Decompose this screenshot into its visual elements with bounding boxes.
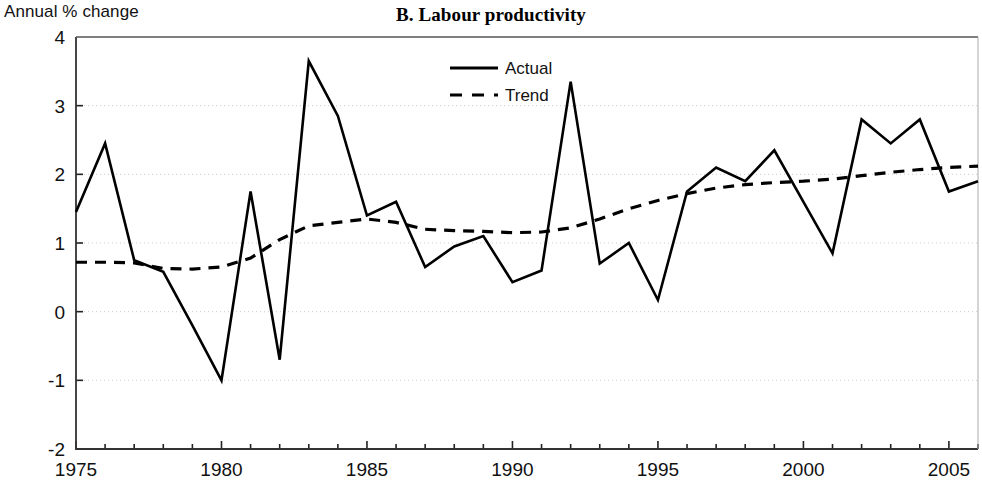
y-tick-label: 4 bbox=[54, 27, 65, 48]
x-tick-label: 1995 bbox=[637, 459, 679, 480]
x-axis-ticks-group: 1975198019851990199520002005 bbox=[55, 441, 978, 480]
y-tick-label: 3 bbox=[54, 96, 65, 117]
gridlines-group bbox=[76, 106, 978, 381]
series-line-trend bbox=[76, 166, 978, 269]
data-series-group bbox=[76, 61, 978, 380]
chart-legend: ActualTrend bbox=[450, 59, 552, 105]
x-tick-label: 2005 bbox=[928, 459, 970, 480]
chart-figure: Annual % change B. Labour productivity -… bbox=[0, 0, 982, 483]
x-tick-label: 1985 bbox=[346, 459, 388, 480]
y-tick-label: 0 bbox=[54, 302, 65, 323]
legend-label-actual: Actual bbox=[505, 59, 552, 78]
y-tick-label: 2 bbox=[54, 164, 65, 185]
y-axis-ticks-group: -2-101234 bbox=[48, 27, 83, 460]
x-tick-label: 1980 bbox=[200, 459, 242, 480]
y-tick-label: 1 bbox=[54, 233, 65, 254]
chart-title: B. Labour productivity bbox=[0, 4, 982, 26]
y-tick-label: -1 bbox=[48, 370, 65, 391]
x-tick-label: 1990 bbox=[491, 459, 533, 480]
series-line-actual bbox=[76, 61, 978, 380]
legend-label-trend: Trend bbox=[505, 86, 549, 105]
y-tick-label: -2 bbox=[48, 439, 65, 460]
chart-plot-area: -2-101234 1975198019851990199520002005 A… bbox=[0, 0, 982, 483]
x-tick-label: 1975 bbox=[55, 459, 97, 480]
x-tick-label: 2000 bbox=[782, 459, 824, 480]
